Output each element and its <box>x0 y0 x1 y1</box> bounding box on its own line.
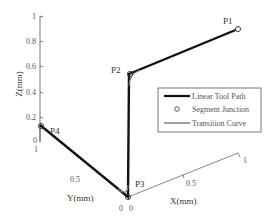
y-tick-0: 0 <box>119 204 123 213</box>
label-p1: P1 <box>223 16 233 26</box>
chart-3d-tool-path: 1 0.8 0.6 0.4 0.2 0 Z(mm) 1 0.5 0 Y(mm) … <box>0 0 274 220</box>
x-axis-label: X(mm) <box>170 196 197 206</box>
y-tick-1: 1 <box>34 145 38 154</box>
y-axis-label: Y(mm) <box>67 193 94 203</box>
z-axis-label: Z(mm) <box>14 71 24 97</box>
legend-transition-label: Transition Curve <box>192 119 247 128</box>
label-p2: P2 <box>111 65 121 75</box>
x-tick-end <box>238 153 240 157</box>
z-tick-0.2: 0.2 <box>26 113 36 122</box>
label-p3: P3 <box>135 179 145 189</box>
y-tick-0.5: 0.5 <box>70 175 80 184</box>
z-tick-0.6: 0.6 <box>26 62 36 71</box>
z-tick-0.8: 0.8 <box>26 37 36 46</box>
legend-linear-label: Linear Tool Path <box>192 92 246 101</box>
x-tick-0: 0 <box>129 204 133 213</box>
z-tick-0: 0 <box>33 136 37 145</box>
label-p4: P4 <box>50 126 60 136</box>
x-tick-mid <box>183 175 184 178</box>
junction-p1 <box>235 26 240 31</box>
z-tick-0.4: 0.4 <box>26 88 36 97</box>
z-ticks <box>40 16 43 118</box>
z-tick-1: 1 <box>32 12 36 21</box>
x-tick-1: 1 <box>243 156 247 165</box>
legend-junction-label: Segment Junction <box>192 105 249 114</box>
x-tick-0.5: 0.5 <box>186 179 196 188</box>
legend: Linear Tool Path Segment Junction Transi… <box>158 88 261 132</box>
